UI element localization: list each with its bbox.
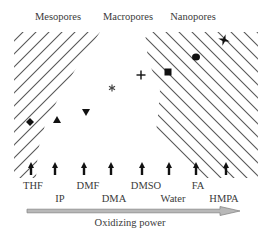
nanopore-hatching: [60, 30, 258, 190]
solvent-label-dma: DMA: [102, 194, 127, 205]
region-label-macropores: Macropores: [103, 12, 153, 23]
solvent-label-dmso: DMSO: [131, 181, 161, 192]
asterisk-marker: [109, 85, 115, 92]
solvent-label-hmpa: HMPA: [209, 194, 238, 205]
solvent-label-ip: IP: [55, 194, 64, 205]
region-label-mesopores: Mesopores: [35, 12, 81, 23]
solvent-arrow-icon: [108, 162, 114, 175]
solvent-label-fa: FA: [192, 181, 205, 192]
solvent-label-thf: THF: [23, 181, 43, 192]
solvent-label-water: Water: [161, 194, 186, 205]
diagram-root: Mesopores Macropores Nanopores THF IP DM…: [0, 0, 258, 242]
triangle-up-marker: [53, 116, 61, 123]
axis-title: Oxidizing power: [95, 218, 166, 229]
circle-marker: [192, 54, 200, 61]
region-label-nanopores: Nanopores: [170, 12, 216, 23]
pore-diagram-graphic: [0, 0, 258, 242]
plus-marker: [137, 71, 146, 80]
solvent-arrow-icon: [81, 162, 87, 175]
solvent-arrow-icon: [166, 162, 172, 175]
solvent-label-dmf: DMF: [77, 181, 100, 192]
solvent-arrow-icon: [52, 162, 58, 175]
square-marker: [165, 69, 172, 76]
oxidizing-power-arrow: [27, 207, 240, 216]
solvent-arrow-icon: [139, 162, 145, 175]
mesopore-hatching: [0, 30, 258, 190]
triangle-down-marker: [82, 109, 90, 116]
